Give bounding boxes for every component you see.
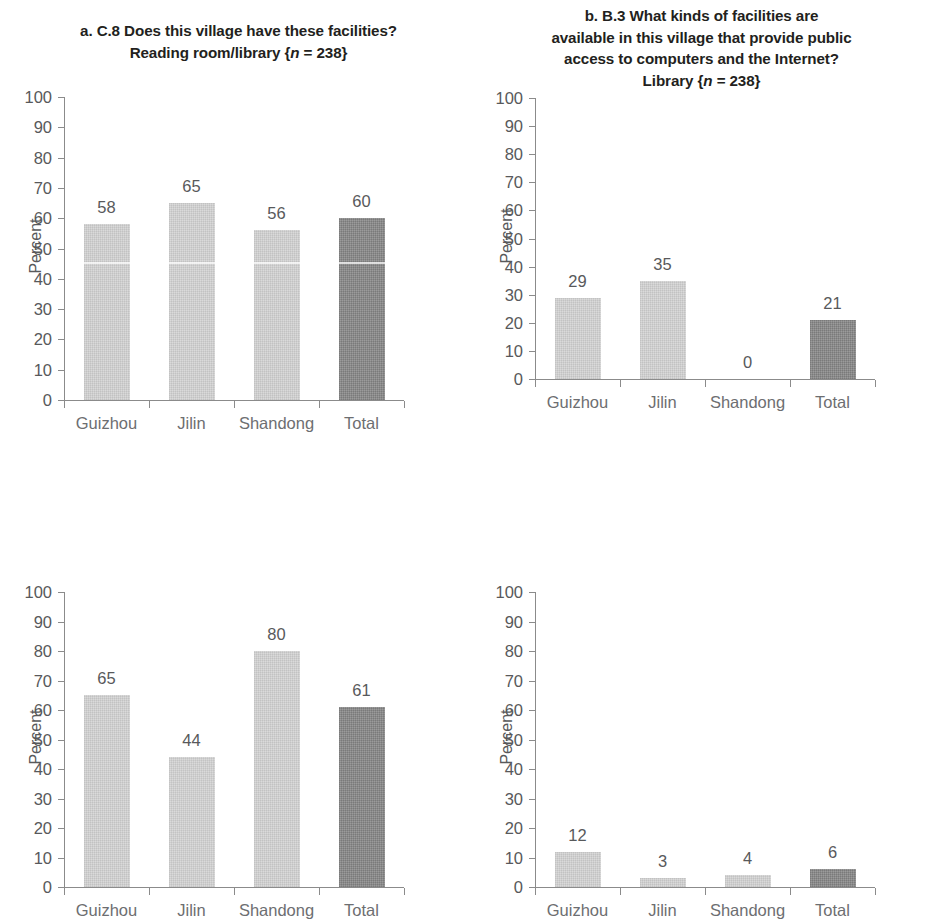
x-tick-label-total: Total — [344, 901, 379, 920]
y-axis-title: Percent — [27, 186, 45, 306]
panel-d-plot: 0102030405060708090100Percent12Guizhou3J… — [535, 592, 875, 887]
bar-value-a-total: 60 — [352, 192, 370, 211]
y-tick-mark — [529, 828, 535, 829]
y-axis-title: Percent — [498, 176, 516, 296]
y-tick-label: 0 — [463, 878, 523, 897]
bar-a-total — [339, 218, 385, 400]
x-tick-mark — [620, 380, 621, 387]
scan-artifact-line — [254, 262, 300, 264]
y-tick-mark — [58, 740, 64, 741]
chart-panel-d: d. E.43 How often have you visited there… — [471, 472, 942, 924]
y-tick-label: 100 — [463, 583, 523, 602]
bar-value-a-jilin: 65 — [182, 177, 200, 196]
y-tick-mark — [529, 710, 535, 711]
x-tick-label-guizhou: Guizhou — [547, 393, 608, 412]
y-tick-label: 90 — [463, 612, 523, 631]
bar-b-jilin — [640, 281, 686, 379]
bar-value-c-total: 61 — [352, 681, 370, 700]
y-tick-mark — [58, 127, 64, 128]
y-tick-mark — [58, 710, 64, 711]
y-axis-title: Percent — [498, 677, 516, 797]
x-tick-mark — [319, 401, 320, 408]
x-tick-mark — [705, 380, 706, 387]
y-tick-label: 100 — [463, 89, 523, 108]
bar-a-shandong — [254, 230, 300, 400]
bar-value-c-jilin: 44 — [182, 731, 200, 750]
x-tick-mark — [790, 888, 791, 895]
y-tick-mark — [529, 622, 535, 623]
y-tick-mark — [529, 681, 535, 682]
x-tick-mark — [875, 380, 876, 387]
y-tick-mark — [529, 98, 535, 99]
x-tick-label-shandong: Shandong — [710, 901, 785, 920]
bar-value-b-total: 21 — [823, 294, 841, 313]
bar-value-b-shandong: 0 — [743, 353, 752, 372]
panel-c-plot: 0102030405060708090100Percent65Guizhou44… — [64, 592, 404, 887]
y-tick-mark — [529, 126, 535, 127]
bar-value-a-shandong: 56 — [267, 204, 285, 223]
x-tick-label-total: Total — [815, 901, 850, 920]
y-tick-mark — [58, 97, 64, 98]
y-tick-mark — [529, 592, 535, 593]
y-tick-label: 80 — [0, 148, 52, 167]
bar-d-guizhou — [555, 852, 601, 887]
figure-grid: a. C.8 Does this village have these faci… — [0, 0, 942, 924]
x-tick-mark — [149, 401, 150, 408]
panel-a-title-line-0: a. C.8 Does this village have these faci… — [14, 20, 463, 42]
y-tick-mark — [58, 309, 64, 310]
y-tick-mark — [529, 799, 535, 800]
bar-b-guizhou — [555, 298, 601, 380]
y-tick-mark — [58, 249, 64, 250]
y-axis-line — [64, 97, 65, 401]
bar-d-jilin — [640, 878, 686, 887]
y-tick-label: 80 — [463, 145, 523, 164]
y-tick-mark — [58, 828, 64, 829]
y-tick-mark — [58, 799, 64, 800]
y-axis-line — [535, 592, 536, 888]
x-tick-mark — [64, 401, 65, 408]
x-tick-mark — [404, 401, 405, 408]
x-tick-mark — [535, 380, 536, 387]
x-tick-label-jilin: Jilin — [177, 414, 205, 433]
panel-b-title-line-3: Library {n = 238} — [471, 70, 932, 92]
x-tick-mark — [535, 888, 536, 895]
y-tick-label: 20 — [0, 330, 52, 349]
bar-value-d-jilin: 3 — [658, 852, 667, 871]
y-tick-label: 0 — [0, 878, 52, 897]
panel-b-title-line-1: available in this village that provide p… — [471, 27, 932, 49]
x-tick-mark — [705, 888, 706, 895]
bar-value-d-total: 6 — [828, 843, 837, 862]
y-tick-mark — [58, 769, 64, 770]
bar-c-total — [339, 707, 385, 887]
y-tick-label: 10 — [463, 341, 523, 360]
y-tick-mark — [58, 339, 64, 340]
y-tick-mark — [58, 279, 64, 280]
bar-c-jilin — [169, 757, 215, 887]
panel-a-title-line-1: Reading room/library {n = 238} — [14, 42, 463, 64]
bar-value-b-guizhou: 29 — [568, 272, 586, 291]
x-tick-mark — [234, 888, 235, 895]
chart-panel-b: b. B.3 What kinds of facilities areavail… — [471, 0, 942, 472]
y-tick-mark — [529, 858, 535, 859]
scan-artifact-line — [339, 262, 385, 264]
bar-d-total — [810, 869, 856, 887]
y-tick-mark — [529, 351, 535, 352]
panel-b-title-line-0: b. B.3 What kinds of facilities are — [471, 5, 932, 27]
x-tick-label-guizhou: Guizhou — [547, 901, 608, 920]
y-tick-mark — [529, 182, 535, 183]
y-tick-mark — [529, 651, 535, 652]
x-tick-label-guizhou: Guizhou — [76, 414, 137, 433]
x-tick-label-shandong: Shandong — [710, 393, 785, 412]
y-tick-label: 0 — [0, 391, 52, 410]
x-tick-label-shandong: Shandong — [239, 414, 314, 433]
y-tick-mark — [58, 592, 64, 593]
y-tick-mark — [58, 370, 64, 371]
y-tick-mark — [529, 210, 535, 211]
panel-a-plot: 0102030405060708090100Percent58Guizhou65… — [64, 97, 404, 400]
bar-b-total — [810, 320, 856, 379]
y-tick-label: 20 — [463, 313, 523, 332]
x-tick-label-jilin: Jilin — [648, 901, 676, 920]
bar-value-a-guizhou: 58 — [97, 198, 115, 217]
y-tick-mark — [529, 769, 535, 770]
bar-value-c-guizhou: 65 — [97, 669, 115, 688]
